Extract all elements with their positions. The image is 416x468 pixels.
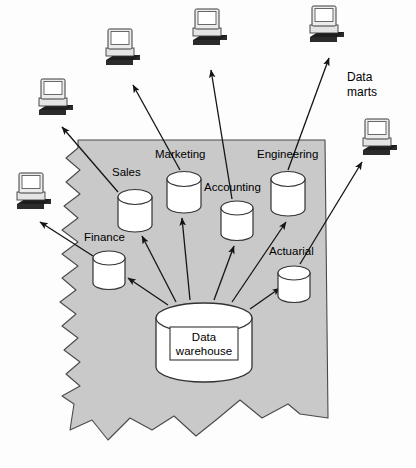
cylinder-sales <box>118 190 152 233</box>
label-data-marts-line2: marts <box>347 85 377 100</box>
cylinder-accounting <box>221 201 253 241</box>
workstation-accounting-icon <box>193 9 227 45</box>
label-engineering: Engineering <box>257 148 318 160</box>
label-actuarial: Actuarial <box>269 245 314 257</box>
label-data-warehouse-line1: Data <box>170 330 238 344</box>
workstation-engineering-icon <box>310 6 344 42</box>
label-data-marts-line1: Data <box>347 70 377 85</box>
label-data-warehouse: Data warehouse <box>170 330 238 358</box>
cylinder-finance <box>93 251 125 290</box>
label-accounting: Accounting <box>204 181 261 193</box>
workstation-actuarial-icon <box>363 119 397 155</box>
label-finance: Finance <box>84 231 125 243</box>
workstation-marketing-icon <box>106 29 140 65</box>
cylinder-marketing <box>167 172 201 214</box>
diagram-canvas: Sales Marketing Accounting Engineering F… <box>0 0 416 468</box>
cylinder-engineering <box>271 172 305 217</box>
label-marketing: Marketing <box>155 148 206 160</box>
label-data-marts: Data marts <box>347 70 377 100</box>
label-data-warehouse-line2: warehouse <box>170 344 238 358</box>
workstation-finance-icon <box>17 173 51 209</box>
label-sales: Sales <box>112 166 141 178</box>
workstation-sales-icon <box>39 79 73 115</box>
cylinder-actuarial <box>278 266 310 303</box>
